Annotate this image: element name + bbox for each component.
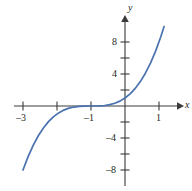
coordinate-plane [0,0,192,191]
x-axis-arrowhead [177,102,184,110]
x-tick-label-neg1: –1 [84,113,94,123]
graph-figure: y x 8 4 –4 –8 –3 –1 1 [0,0,192,191]
y-tick-label-neg4: –4 [106,133,116,143]
x-tick-label-neg3: –3 [16,113,26,123]
y-axis-arrowhead [121,15,129,22]
y-tick-label-4: 4 [112,69,117,79]
y-tick-label-8: 8 [112,37,117,47]
x-tick-label-1: 1 [156,113,161,123]
x-axis-label: x [185,100,189,110]
function-curve [23,26,164,170]
y-tick-label-neg8: –8 [106,165,116,175]
y-axis-label: y [128,3,132,13]
